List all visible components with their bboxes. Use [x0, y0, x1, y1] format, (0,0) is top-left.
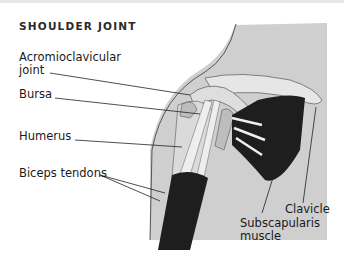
label-acromioclavicular-line2: joint	[19, 64, 121, 77]
label-humerus: Humerus	[19, 130, 71, 143]
label-clavicle: Clavicle	[285, 203, 330, 216]
label-bursa: Bursa	[19, 88, 52, 101]
label-biceps-tendons: Biceps tendons	[19, 167, 107, 180]
label-subscapularis-line2: muscle	[240, 230, 320, 243]
label-subscapularis: Subscapularis muscle	[240, 217, 320, 243]
label-acromioclavicular: Acromioclavicular joint	[19, 51, 121, 77]
